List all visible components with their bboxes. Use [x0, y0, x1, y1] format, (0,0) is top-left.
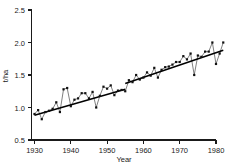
data-point — [102, 86, 104, 88]
data-point — [106, 88, 108, 90]
data-point — [186, 58, 188, 60]
data-point — [131, 81, 133, 83]
x-tick-label-1960: 1960 — [135, 146, 152, 155]
x-tick-label-1940: 1940 — [62, 146, 79, 155]
data-point — [59, 111, 61, 113]
data-point — [33, 113, 35, 115]
data-point — [77, 97, 79, 99]
data-point — [142, 77, 144, 79]
data-point — [157, 77, 159, 79]
data-point — [128, 79, 130, 81]
data-point — [215, 63, 217, 65]
data-point — [150, 75, 152, 77]
chart-container: 2.5 2.0 1.5 1.0 0.5 t/ha 1930 1940 1950 … — [0, 0, 232, 164]
data-point — [204, 51, 206, 53]
data-point — [117, 90, 119, 92]
data-point — [171, 64, 173, 66]
data-point — [44, 111, 46, 113]
data-point — [91, 91, 93, 93]
data-point — [189, 52, 191, 54]
data-point — [62, 88, 64, 90]
data-point — [208, 51, 210, 53]
y-tick-label-1.5: 1.5 — [15, 71, 25, 80]
data-point — [222, 41, 224, 43]
data-point — [84, 92, 86, 94]
trend-lines-group — [35, 50, 224, 115]
x-axis-title: Year — [116, 155, 132, 164]
data-point — [124, 90, 126, 92]
x-tick-label-1980: 1980 — [208, 146, 225, 155]
data-point — [113, 94, 115, 96]
data-point — [146, 71, 148, 73]
data-point — [153, 67, 155, 69]
data-point — [95, 106, 97, 108]
data-point — [197, 54, 199, 56]
y-tick-label-2.5: 2.5 — [15, 6, 25, 15]
data-point — [81, 92, 83, 94]
data-points-group — [33, 41, 224, 120]
data-point — [66, 87, 68, 89]
data-point — [193, 74, 195, 76]
x-tick-label-1950: 1950 — [99, 146, 116, 155]
data-point — [121, 89, 123, 91]
x-axis-group: 1930 1940 1950 1960 1970 1980 Year — [26, 140, 224, 164]
y-axis-group: 2.5 2.0 1.5 1.0 0.5 t/ha — [1, 6, 32, 145]
y-tick-label-1.0: 1.0 — [15, 104, 25, 113]
data-point — [219, 52, 221, 54]
data-point — [88, 97, 90, 99]
data-point — [164, 66, 166, 68]
data-point — [168, 65, 170, 67]
data-point — [139, 78, 141, 80]
data-point — [52, 108, 54, 110]
data-point — [135, 74, 137, 76]
data-point — [200, 56, 202, 58]
data-point — [110, 84, 112, 86]
x-tick-label-1970: 1970 — [171, 146, 188, 155]
plot-data-group — [33, 41, 224, 120]
y-tick-label-0.5: 0.5 — [15, 136, 25, 145]
data-point — [175, 61, 177, 63]
x-tick-label-1930: 1930 — [26, 146, 43, 155]
data-point — [179, 61, 181, 63]
data-point — [182, 55, 184, 57]
data-point — [41, 118, 43, 120]
data-point — [48, 110, 50, 112]
data-point — [160, 69, 162, 71]
data-point — [73, 99, 75, 101]
y-axis-title: t/ha — [1, 69, 10, 82]
data-point — [55, 101, 57, 103]
data-point — [99, 95, 101, 97]
data-point — [211, 41, 213, 43]
y-tick-label-2.0: 2.0 — [15, 39, 25, 48]
data-point — [70, 105, 72, 107]
data-point — [37, 109, 39, 111]
yield-vs-year-scatter-chart: 2.5 2.0 1.5 1.0 0.5 t/ha 1930 1940 1950 … — [0, 0, 232, 164]
